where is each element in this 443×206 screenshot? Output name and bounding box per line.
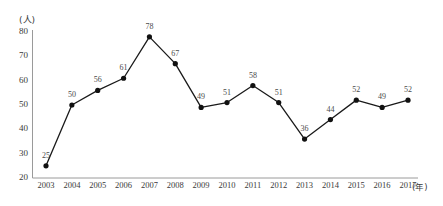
data-point-value-label: 61 bbox=[113, 63, 135, 72]
data-point-marker bbox=[69, 102, 74, 107]
data-point-value-label: 25 bbox=[35, 151, 57, 160]
y-axis-tick-label: 80 bbox=[12, 26, 28, 36]
data-point-marker bbox=[173, 61, 178, 66]
data-point-value-label: 51 bbox=[268, 88, 290, 97]
y-axis-tick-label: 70 bbox=[12, 50, 28, 60]
x-axis-unit-label: (年) bbox=[412, 180, 428, 192]
y-axis-tick-label: 30 bbox=[12, 148, 28, 158]
data-point-marker bbox=[95, 88, 100, 93]
data-point-value-label: 51 bbox=[216, 88, 238, 97]
data-point-value-label: 44 bbox=[319, 105, 341, 114]
data-point-value-label: 36 bbox=[294, 124, 316, 133]
data-point-marker bbox=[121, 76, 126, 81]
data-point-marker bbox=[276, 100, 281, 105]
line-chart: (人) 80706050403020 200320042005200620072… bbox=[0, 0, 443, 206]
y-axis-tick-label: 60 bbox=[12, 75, 28, 85]
data-point-marker bbox=[224, 100, 229, 105]
y-axis-tick-label: 40 bbox=[12, 123, 28, 133]
data-point-marker bbox=[199, 105, 204, 110]
data-point-marker bbox=[43, 163, 48, 168]
y-axis-tick-label: 50 bbox=[12, 99, 28, 109]
data-point-value-label: 67 bbox=[164, 49, 186, 58]
data-point-value-label: 49 bbox=[190, 92, 212, 101]
data-point-marker bbox=[147, 34, 152, 39]
data-point-value-label: 56 bbox=[87, 75, 109, 84]
data-point-marker bbox=[380, 105, 385, 110]
data-point-marker bbox=[354, 98, 359, 103]
data-point-value-label: 49 bbox=[371, 92, 393, 101]
data-point-value-label: 58 bbox=[242, 71, 264, 80]
data-point-value-label: 78 bbox=[138, 22, 160, 31]
data-point-value-label: 50 bbox=[61, 90, 83, 99]
data-point-marker bbox=[302, 136, 307, 141]
data-point-markers bbox=[43, 34, 410, 168]
data-point-value-label: 52 bbox=[345, 85, 367, 94]
y-axis-tick-label: 20 bbox=[12, 172, 28, 182]
data-point-value-label: 52 bbox=[397, 85, 419, 94]
chart-plot-area bbox=[0, 0, 443, 206]
data-point-marker bbox=[250, 83, 255, 88]
data-point-marker bbox=[328, 117, 333, 122]
data-point-marker bbox=[405, 98, 410, 103]
